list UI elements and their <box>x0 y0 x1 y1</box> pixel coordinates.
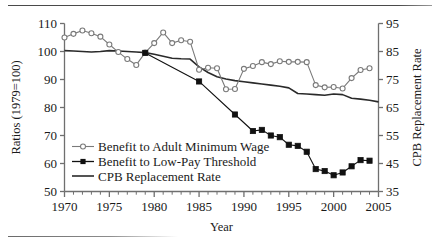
y-ticklabel-right: 35 <box>386 184 399 199</box>
series-marker-benefit-to-low-pay-threshold <box>250 128 255 133</box>
series-marker-benefit-to-low-pay-threshold <box>358 158 363 163</box>
series-marker-benefit-to-adult-minimum-wage <box>349 76 354 81</box>
series-marker-benefit-to-adult-minimum-wage <box>107 42 112 47</box>
x-ticklabel: 1975 <box>96 199 122 214</box>
series-marker-benefit-to-adult-minimum-wage <box>125 57 130 62</box>
series-marker-benefit-to-adult-minimum-wage <box>313 83 318 88</box>
series-marker-benefit-to-adult-minimum-wage <box>295 59 300 64</box>
x-ticklabel: 2005 <box>366 199 392 214</box>
series-marker-benefit-to-adult-minimum-wage <box>62 35 67 40</box>
y-ticklabel-right: 55 <box>386 128 399 143</box>
x-ticklabel: 1970 <box>52 199 78 214</box>
y-axis-title-left: Ratios (1979=100) <box>9 60 23 154</box>
x-ticklabel: 2000 <box>321 199 347 214</box>
series-marker-benefit-to-adult-minimum-wage <box>152 41 157 46</box>
series-marker-benefit-to-adult-minimum-wage <box>206 65 211 70</box>
x-ticklabel: 1985 <box>186 199 212 214</box>
bottom-divider-rule <box>8 236 178 237</box>
series-marker-benefit-to-adult-minimum-wage <box>286 59 291 64</box>
y-ticklabel-right: 65 <box>386 100 399 115</box>
x-ticklabel: 1995 <box>276 199 302 214</box>
series-marker-benefit-to-adult-minimum-wage <box>250 64 255 69</box>
series-marker-benefit-to-low-pay-threshold <box>232 112 237 117</box>
legend-label-benefit-to-low-pay-threshold: Benefit to Low-Pay Threshold <box>98 154 257 169</box>
series-marker-benefit-to-adult-minimum-wage <box>89 31 94 36</box>
series-marker-benefit-to-adult-minimum-wage <box>304 60 309 65</box>
series-marker-benefit-to-low-pay-threshold <box>259 127 264 132</box>
y-ticklabel-right: 85 <box>386 44 399 59</box>
top-divider-rule <box>8 5 432 6</box>
series-marker-benefit-to-low-pay-threshold <box>286 142 291 147</box>
x-ticklabel: 1990 <box>231 199 257 214</box>
series-marker-benefit-to-adult-minimum-wage <box>340 86 345 91</box>
series-marker-benefit-to-adult-minimum-wage <box>116 50 121 55</box>
series-marker-benefit-to-low-pay-threshold <box>268 133 273 138</box>
series-marker-benefit-to-low-pay-threshold <box>313 167 318 172</box>
series-marker-benefit-to-low-pay-threshold <box>295 143 300 148</box>
legend-label-benefit-to-adult-minimum-wage: Benefit to Adult Minimum Wage <box>98 139 270 154</box>
x-axis-title: Year <box>210 220 234 234</box>
series-marker-benefit-to-adult-minimum-wage <box>331 85 336 90</box>
series-marker-benefit-to-adult-minimum-wage <box>215 66 220 71</box>
series-marker-benefit-to-low-pay-threshold <box>340 170 345 175</box>
series-marker-benefit-to-adult-minimum-wage <box>277 59 282 64</box>
y-ticklabel-left: 80 <box>44 100 57 115</box>
series-line-cpb-replacement-rate <box>65 51 379 102</box>
series-marker-benefit-to-adult-minimum-wage <box>232 87 237 92</box>
y-ticklabel-left: 90 <box>44 72 57 87</box>
series-marker-benefit-to-adult-minimum-wage <box>259 60 264 65</box>
legend-symbol-filled-square <box>80 159 85 164</box>
y-ticklabel-right: 95 <box>386 16 399 31</box>
series-marker-benefit-to-adult-minimum-wage <box>358 67 363 72</box>
series-marker-benefit-to-adult-minimum-wage <box>80 28 85 33</box>
series-marker-benefit-to-low-pay-threshold <box>349 164 354 169</box>
series-marker-benefit-to-adult-minimum-wage <box>71 31 76 36</box>
series-marker-benefit-to-adult-minimum-wage <box>322 85 327 90</box>
y-ticklabel-right: 45 <box>386 156 399 171</box>
series-marker-benefit-to-adult-minimum-wage <box>188 39 193 44</box>
y-ticklabel-right: 75 <box>386 72 399 87</box>
series-line-benefit-to-adult-minimum-wage <box>65 31 370 90</box>
series-marker-benefit-to-low-pay-threshold <box>277 135 282 140</box>
series-marker-benefit-to-adult-minimum-wage <box>179 38 184 43</box>
series-marker-benefit-to-low-pay-threshold <box>196 79 201 84</box>
series-marker-benefit-to-adult-minimum-wage <box>268 62 273 67</box>
legend-label-cpb-replacement-rate: CPB Replacement Rate <box>98 169 221 184</box>
y-axis-title-right: CPB Replacement Rate <box>410 48 424 166</box>
series-marker-benefit-to-low-pay-threshold <box>143 50 148 55</box>
series-marker-benefit-to-adult-minimum-wage <box>241 66 246 71</box>
series-marker-benefit-to-adult-minimum-wage <box>161 30 166 35</box>
series-marker-benefit-to-low-pay-threshold <box>331 173 336 178</box>
series-marker-benefit-to-adult-minimum-wage <box>223 87 228 92</box>
x-ticklabel: 1980 <box>141 199 167 214</box>
series-marker-benefit-to-adult-minimum-wage <box>170 41 175 46</box>
y-ticklabel-left: 50 <box>44 184 57 199</box>
y-ticklabel-left: 100 <box>38 44 58 59</box>
series-marker-benefit-to-adult-minimum-wage <box>98 34 103 39</box>
series-marker-benefit-to-low-pay-threshold <box>304 149 309 154</box>
series-marker-benefit-to-low-pay-threshold <box>322 168 327 173</box>
series-marker-benefit-to-adult-minimum-wage <box>134 62 139 67</box>
series-marker-benefit-to-low-pay-threshold <box>367 158 372 163</box>
y-ticklabel-left: 70 <box>44 128 57 143</box>
legend-symbol-open-circle <box>81 144 86 149</box>
figure-container: 5060708090100110354555657585951970197519… <box>0 0 438 246</box>
chart-canvas: 5060708090100110354555657585951970197519… <box>0 0 438 246</box>
y-ticklabel-left: 110 <box>38 16 57 31</box>
series-marker-benefit-to-adult-minimum-wage <box>367 66 372 71</box>
series-marker-benefit-to-adult-minimum-wage <box>197 67 202 72</box>
y-ticklabel-left: 60 <box>44 156 57 171</box>
